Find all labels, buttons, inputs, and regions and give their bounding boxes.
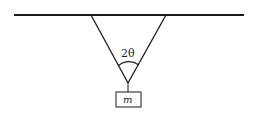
angle-arc xyxy=(118,62,139,66)
diagram-canvas: 2θ m xyxy=(0,0,256,116)
mass-label: m xyxy=(123,94,132,105)
angle-label: 2θ xyxy=(121,47,135,60)
